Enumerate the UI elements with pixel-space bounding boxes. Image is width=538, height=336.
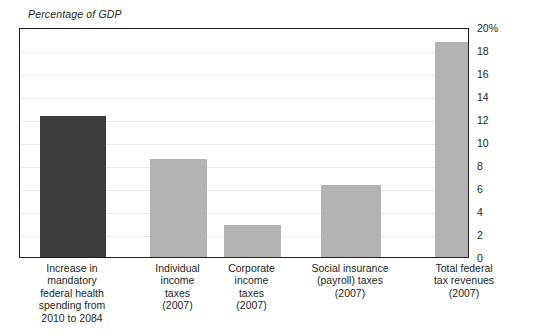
- y-tick-label: 12: [477, 114, 489, 126]
- chart-title: Percentage of GDP: [28, 8, 122, 20]
- x-category-label: Social insurance(payroll) taxes(2007): [295, 262, 405, 299]
- plot-area: [19, 28, 469, 258]
- x-category-line: (2007): [409, 287, 519, 299]
- x-category-line: Increase in: [17, 262, 127, 274]
- x-category-label: Total federaltax revenues(2007): [409, 262, 519, 299]
- y-tick-label: 6: [477, 183, 483, 195]
- gridline: [20, 52, 468, 53]
- x-category-line: tax revenues: [409, 274, 519, 286]
- y-tick-label: 18: [477, 45, 489, 57]
- x-category-label: Increase inmandatoryfederal healthspendi…: [17, 262, 127, 324]
- x-category-line: (2007): [295, 287, 405, 299]
- y-tick-label: 14: [477, 91, 489, 103]
- x-category-line: spending from: [17, 299, 127, 311]
- y-tick-label: 8: [477, 160, 483, 172]
- bar: [321, 185, 381, 257]
- y-tick-label: 10: [477, 137, 489, 149]
- y-tick-label: 20%: [477, 22, 498, 34]
- x-category-line: Corporate: [197, 262, 307, 274]
- gridline: [20, 75, 468, 76]
- y-tick-label: 4: [477, 206, 483, 218]
- x-category-line: 2010 to 2084: [17, 312, 127, 324]
- x-category-line: Total federal: [409, 262, 519, 274]
- x-category-line: taxes: [197, 287, 307, 299]
- y-axis: 20%181614121086420: [472, 28, 532, 258]
- y-tick-label: 2: [477, 229, 483, 241]
- bar: [224, 225, 281, 257]
- x-category-label: Corporateincometaxes(2007): [197, 262, 307, 312]
- y-tick-label: 16: [477, 68, 489, 80]
- bar: [150, 159, 207, 257]
- x-category-line: Social insurance: [295, 262, 405, 274]
- x-category-line: federal health: [17, 287, 127, 299]
- bar: [40, 116, 106, 257]
- bar-chart-figure: Percentage of GDP 20%181614121086420 Inc…: [0, 0, 538, 336]
- gridline: [20, 98, 468, 99]
- bar: [435, 42, 468, 257]
- plot-inner: [20, 29, 468, 257]
- x-category-line: mandatory: [17, 274, 127, 286]
- x-category-line: (2007): [197, 299, 307, 311]
- x-category-line: (payroll) taxes: [295, 274, 405, 286]
- x-axis: Increase inmandatoryfederal healthspendi…: [19, 262, 469, 334]
- x-category-line: income: [197, 274, 307, 286]
